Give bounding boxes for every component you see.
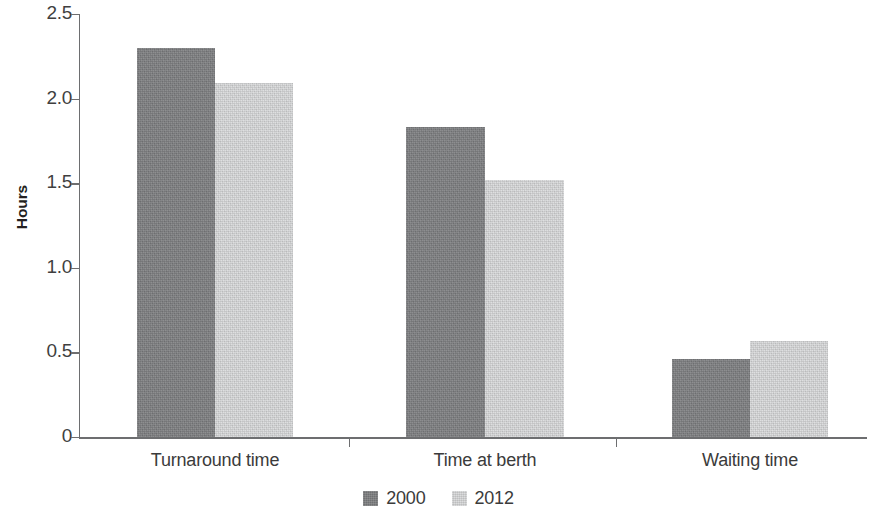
x-axis-category-label: Time at berth: [375, 450, 595, 471]
bar-chart: Hours 2.52.01.51.00.50 Turnaround timeTi…: [0, 0, 877, 516]
legend-entry-2000[interactable]: 2000: [363, 488, 425, 509]
bar-2000-time-at-berth: [406, 127, 485, 437]
bar-2012-turnaround-time: [215, 83, 293, 437]
bar-2012-waiting-time: [750, 341, 828, 437]
legend-swatch-icon: [452, 491, 467, 506]
chart-legend: 20002012: [0, 488, 877, 509]
bar-2000-turnaround-time: [137, 48, 215, 437]
x-axis-category-label: Waiting time: [640, 450, 860, 471]
legend-entry-2012[interactable]: 2012: [452, 488, 514, 509]
legend-label: 2000: [386, 488, 425, 509]
x-axis-divider-tick: [616, 438, 617, 447]
x-axis-divider-tick: [349, 438, 350, 447]
bar-2012-time-at-berth: [485, 180, 564, 437]
legend-swatch-icon: [363, 491, 378, 506]
bar-2000-waiting-time: [672, 359, 750, 437]
x-axis-category-label: Turnaround time: [105, 450, 325, 471]
legend-label: 2012: [475, 488, 514, 509]
x-axis-line: [79, 437, 867, 439]
plot-area: [0, 0, 877, 437]
